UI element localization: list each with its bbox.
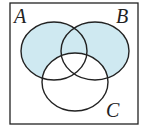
label-c: C bbox=[106, 99, 120, 121]
label-a: A bbox=[12, 5, 27, 27]
label-b: B bbox=[116, 5, 128, 27]
venn-diagram: A B C bbox=[0, 0, 145, 138]
